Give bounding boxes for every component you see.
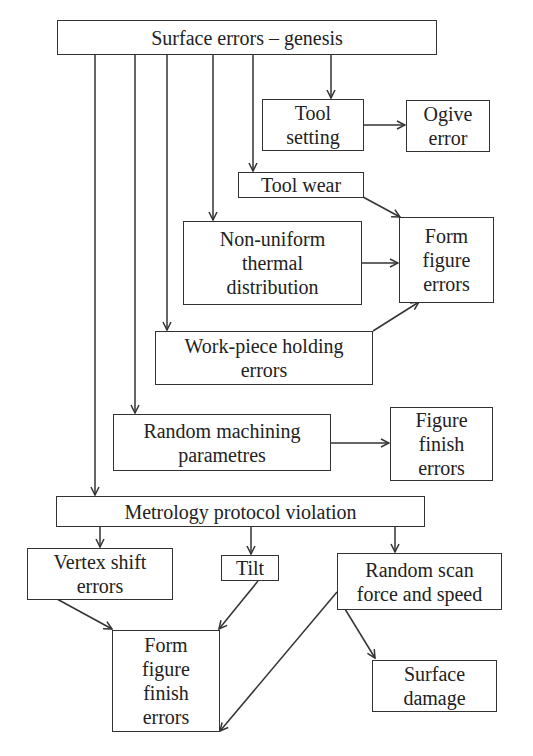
arrow-tilt-to-form-figure-finish [219,581,258,629]
arrow-work-piece-to-form-figure [373,302,419,331]
node-ogive-error: Ogive error [406,100,490,152]
node-figure-finish-errors: Figure finish errors [390,407,493,481]
node-form-figure-finish-errors: Form figure finish errors [112,630,220,732]
node-non-uniform-thermal: Non-uniform thermal distribution [183,221,362,305]
node-tool-wear: Tool wear [238,172,364,198]
arrow-random-scan-to-form-figure-finish [220,592,337,731]
node-surface-errors-genesis: Surface errors – genesis [57,20,437,55]
node-vertex-shift: Vertex shift errors [27,548,173,600]
arrow-random-scan-to-surface-damage [345,609,375,658]
node-surface-damage: Surface damage [372,660,497,712]
arrow-tool-wear-to-form-figure [363,197,400,217]
node-work-piece-holding: Work-piece holding errors [155,331,373,385]
node-random-machining: Random machining parametres [113,414,331,471]
node-tilt: Tilt [221,555,279,581]
node-metrology-protocol: Metrology protocol violation [56,496,425,527]
node-form-figure-errors: Form figure errors [399,217,494,303]
arrow-vertex-shift-to-form-figure-finish [57,599,112,629]
node-random-scan: Random scan force and speed [337,553,502,610]
node-tool-setting: Tool setting [262,99,364,151]
